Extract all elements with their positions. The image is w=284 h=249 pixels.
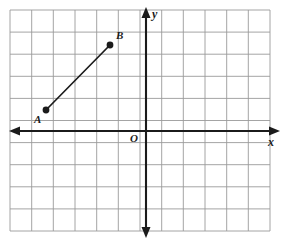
x-axis-label: x: [268, 136, 274, 148]
y-axis-arrow-up: [142, 7, 151, 18]
y-axis-arrow-down: [142, 227, 151, 238]
y-axis-label: y: [152, 8, 157, 20]
x-axis-arrow-left: [9, 127, 20, 136]
coordinate-plane-canvas: [0, 0, 284, 249]
origin-label: O: [130, 133, 138, 144]
grid-lines: [10, 10, 270, 231]
segment-ab: [46, 45, 110, 110]
coordinate-plane-figure: y x O A B: [0, 0, 284, 249]
x-axis: [9, 127, 280, 136]
point-b-marker: [107, 42, 114, 49]
y-axis: [142, 7, 151, 238]
point-a-label: A: [34, 114, 41, 125]
segment-ab-line: [46, 45, 110, 110]
point-b-label: B: [116, 30, 123, 41]
point-a-marker: [43, 107, 50, 114]
